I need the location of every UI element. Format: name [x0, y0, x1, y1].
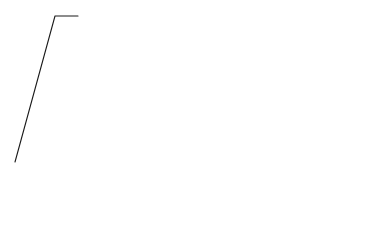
diagram-canvas: [0, 0, 385, 237]
fig-18-16-drawing: [15, 16, 78, 162]
